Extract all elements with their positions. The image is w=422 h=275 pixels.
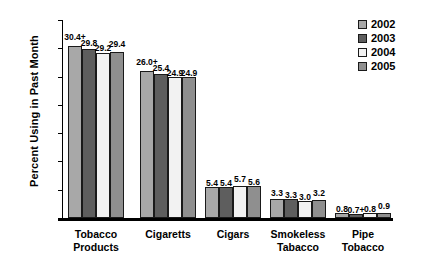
bar-value-label: 3.0 [299, 193, 311, 202]
legend-item-2004[interactable]: 2004 [358, 46, 395, 59]
bar[interactable]: 29.8 [82, 49, 96, 218]
legend-item-2003[interactable]: 2003 [358, 32, 395, 45]
bar[interactable]: 0.7+ [349, 214, 363, 218]
legend-label: 2005 [371, 61, 395, 72]
legend-label: 2002 [371, 19, 395, 30]
legend-swatch-icon [358, 48, 367, 57]
bar-value-label: 24.9 [181, 69, 198, 78]
bar-group: 30.4+29.829.229.4 [68, 20, 124, 218]
bar[interactable]: 29.4 [110, 52, 124, 218]
bar-value-label: 5.7 [234, 175, 246, 184]
legend-item-2005[interactable]: 2005 [358, 60, 395, 73]
bar[interactable]: 29.2 [96, 53, 110, 218]
bar-value-label: 5.4 [220, 179, 232, 188]
x-category-label: Pipe Tobacco [318, 228, 408, 253]
bar-value-label: 0.8 [336, 205, 348, 214]
bar-group: 26.0+25.424.924.9 [140, 20, 196, 218]
y-axis-ticks: 05101520253035 [0, 0, 58, 240]
bar-group: 3.33.33.03.2 [270, 20, 326, 218]
bar[interactable]: 3.0 [298, 201, 312, 218]
bar-value-label: 3.3 [285, 191, 297, 200]
bar[interactable]: 5.7 [233, 186, 247, 218]
bar-value-label: 0.9 [378, 202, 390, 211]
bar[interactable]: 3.3 [270, 199, 284, 218]
legend-item-2002[interactable]: 2002 [358, 18, 395, 31]
bar-value-label: 0.7+ [348, 206, 365, 215]
bar[interactable]: 24.9 [168, 77, 182, 218]
bar-value-label: 5.6 [248, 178, 260, 187]
chart-legend: 2002200320042005 [358, 18, 395, 74]
bar-chart: Percent Using in Past Month 051015202530… [0, 0, 422, 275]
bar[interactable]: 3.2 [312, 200, 326, 218]
legend-swatch-icon [358, 34, 367, 43]
bar[interactable]: 25.4 [154, 74, 168, 218]
legend-swatch-icon [358, 20, 367, 29]
bar-value-label: 29.4 [109, 40, 126, 49]
bar-group: 5.45.45.75.6 [205, 20, 261, 218]
bar[interactable]: 0.9 [377, 213, 391, 218]
bar-value-label: 5.4 [206, 179, 218, 188]
bar[interactable]: 24.9 [182, 77, 196, 218]
bar[interactable]: 0.8 [363, 213, 377, 218]
bar[interactable]: 3.3 [284, 199, 298, 218]
bar[interactable]: 26.0+ [140, 71, 154, 218]
plot-area: 30.4+29.829.229.426.0+25.424.924.95.45.4… [63, 20, 393, 218]
bar[interactable]: 5.4 [219, 187, 233, 218]
legend-swatch-icon [358, 62, 367, 71]
legend-label: 2004 [371, 47, 395, 58]
bar-value-label: 3.3 [271, 189, 283, 198]
bar[interactable]: 30.4+ [68, 46, 82, 218]
bar[interactable]: 5.6 [247, 186, 261, 218]
bar-value-label: 0.8 [364, 205, 376, 214]
bar[interactable]: 5.4 [205, 187, 219, 218]
bar-value-label: 3.2 [313, 189, 325, 198]
legend-label: 2003 [371, 33, 395, 44]
x-axis-line [58, 218, 393, 221]
